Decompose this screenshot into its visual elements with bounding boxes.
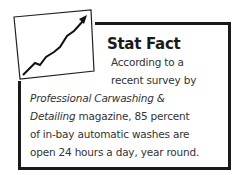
body-line-5: of in-bay automatic washes are [30,128,189,140]
body-line-2: recent survey by [111,74,196,86]
stat-fact-title: Stat Fact [107,35,180,53]
body-line-6: open 24 hours a day, year round. [30,146,199,158]
magazine-name-line-2: Detailing [30,110,75,122]
rising-line-chart-icon [13,9,95,81]
body-line-4-text: magazine, 85 percent [75,110,189,122]
body-line-4: Detailing magazine, 85 percent [30,110,189,122]
magazine-name-line-1: Professional Carwashing & [30,92,165,104]
body-line-1: According to a [111,56,184,68]
